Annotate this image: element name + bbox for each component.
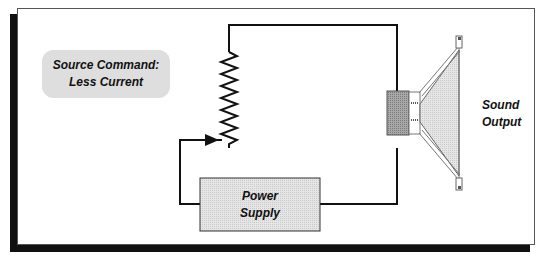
sound-output-line1: Sound [482,97,541,114]
wire-right-bottom [320,148,397,204]
source-command-line2: Less Current [42,74,170,91]
power-supply-line1: Power [200,188,320,205]
speaker-icon [387,36,462,190]
resistor-zigzag [221,52,237,148]
source-command-line1: Source Command: [42,57,170,74]
sound-output-line2: Output [482,114,541,131]
power-supply-label: Power Supply [200,178,320,231]
speaker-magnet [387,91,409,135]
sound-output-label: Sound Output [482,97,541,131]
wire-top [229,25,397,110]
power-supply-line2: Supply [200,205,320,222]
variable-resistor [205,52,237,148]
source-command-label: Source Command: Less Current [42,50,170,98]
